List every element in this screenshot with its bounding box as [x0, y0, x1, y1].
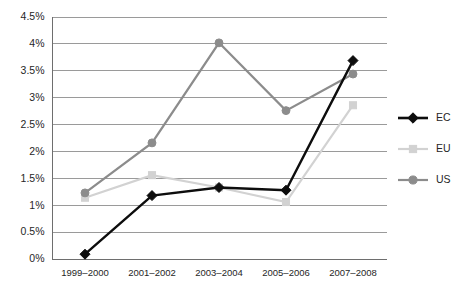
- series-line-us: [85, 43, 353, 193]
- y-tick-label: 4.5%: [21, 10, 45, 22]
- x-tick-label: 2001–2002: [128, 267, 176, 278]
- data-point-eu-4: [349, 102, 356, 109]
- legend-label-ec: EC: [436, 111, 451, 123]
- x-tick-label: 1999–2000: [61, 267, 109, 278]
- series-us: [81, 39, 357, 197]
- series-line-ec: [85, 61, 353, 255]
- gridlines-group: [52, 18, 387, 260]
- legend-label-eu: EU: [436, 142, 451, 154]
- legend-item-eu[interactable]: EU: [398, 142, 451, 154]
- legend-swatch-marker-us: [409, 176, 417, 184]
- data-point-ec-4: [348, 56, 358, 66]
- y-tick-label: 0.5%: [21, 225, 45, 237]
- data-point-us-1: [148, 139, 156, 147]
- y-tick-label: 0%: [29, 252, 44, 264]
- legend-swatch-marker-eu: [409, 145, 416, 152]
- y-tick-label: 3.5%: [21, 64, 45, 76]
- legend-label-us: US: [436, 173, 451, 185]
- legend-item-us[interactable]: US: [398, 173, 451, 185]
- y-tick-label: 1%: [29, 199, 44, 211]
- y-tick-label: 3%: [29, 91, 44, 103]
- x-axis-tick-labels: 1999–20002001–20022003–20042005–20062007…: [61, 267, 377, 278]
- y-axis-tick-labels: 0%0.5%1%1.5%2%2.5%3%3.5%4%4.5%: [21, 10, 45, 264]
- data-point-us-2: [215, 39, 223, 47]
- x-tick-label: 2005–2006: [262, 267, 310, 278]
- data-series-group: [80, 39, 358, 259]
- y-tick-label: 1.5%: [21, 172, 45, 184]
- data-point-us-4: [349, 70, 357, 78]
- data-point-us-0: [81, 189, 89, 197]
- x-tick-label: 2003–2004: [195, 267, 243, 278]
- y-tick-label: 4%: [29, 37, 44, 49]
- data-point-eu-1: [148, 172, 155, 179]
- legend-swatch-marker-ec: [408, 113, 418, 123]
- legend-item-ec[interactable]: EC: [398, 111, 451, 123]
- data-point-ec-3: [281, 185, 291, 195]
- x-tick-label: 2007–2008: [329, 267, 377, 278]
- line-chart-figure: 0%0.5%1%1.5%2%2.5%3%3.5%4%4.5% 1999–2000…: [0, 0, 466, 301]
- chart-canvas: 0%0.5%1%1.5%2%2.5%3%3.5%4%4.5% 1999–2000…: [0, 0, 466, 301]
- y-tick-label: 2%: [29, 145, 44, 157]
- data-point-eu-3: [282, 199, 289, 206]
- figure-caption: [0, 285, 466, 301]
- data-point-us-3: [282, 107, 290, 115]
- y-tick-label: 2.5%: [21, 118, 45, 130]
- axes-group: [52, 17, 387, 260]
- chart-legend: ECEUUS: [398, 111, 451, 185]
